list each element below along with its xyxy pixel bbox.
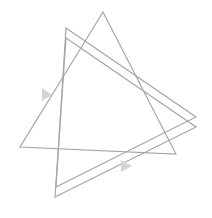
diagram-canvas xyxy=(0,0,212,218)
rotated-triangle-inner xyxy=(55,38,196,197)
left-arrow-icon xyxy=(42,88,52,101)
triangles-diagram xyxy=(0,0,212,218)
upright-triangle xyxy=(20,12,176,154)
